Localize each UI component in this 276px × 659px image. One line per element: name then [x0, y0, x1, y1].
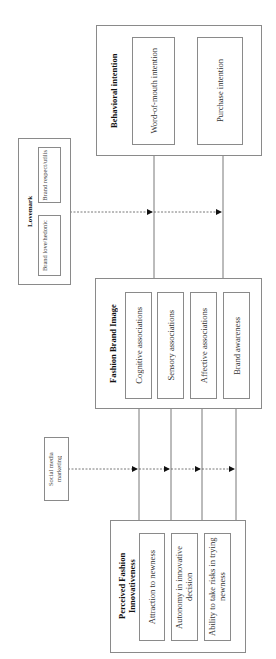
- fashion-brand-image-title: Fashion Brand Image: [106, 279, 120, 408]
- behavioral-intention-title: Behavioral intention: [107, 26, 121, 155]
- brand-respect-box: Brand respect/utilis: [38, 147, 61, 203]
- cognitive-associations-box: Cognitive associations: [125, 292, 152, 399]
- perceived-fashion-innovativeness-title: Perceived Fashion Innovativeness: [116, 541, 138, 631]
- word-of-mouth-intention-label: Word-of-mouth intention: [149, 48, 159, 133]
- brand-respect-label: Brand respect/utilis: [41, 150, 59, 201]
- attraction-to-newness-label: Attraction to newness: [147, 550, 157, 624]
- autonomy-in-innovative-decision-box: Autonomy in innovative decision: [171, 533, 198, 641]
- purchase-intention-box: Purchase intention: [197, 37, 243, 145]
- affective-associations-label: Affective associations: [199, 308, 209, 383]
- social-media-marketing-box: Social media marketing: [44, 437, 69, 501]
- cognitive-associations-label: Cognitive associations: [134, 307, 144, 384]
- social-media-marketing-label: Social media marketing: [47, 439, 67, 499]
- ability-to-take-risks-label: Ability to take risks in trying newness: [207, 535, 229, 639]
- sensory-associations-box: Sensory associations: [157, 292, 184, 399]
- brand-awareness-box: Brand awareness: [223, 292, 250, 399]
- sensory-associations-label: Sensory associations: [166, 310, 176, 381]
- brand-awareness-label: Brand awareness: [232, 317, 242, 375]
- ability-to-take-risks-box: Ability to take risks in trying newness: [204, 533, 231, 641]
- attraction-to-newness-box: Attraction to newness: [139, 533, 165, 641]
- purchase-intention-label: Purchase intention: [215, 59, 225, 122]
- autonomy-in-innovative-decision-label: Autonomy in innovative decision: [174, 535, 196, 639]
- affective-associations-box: Affective associations: [190, 292, 217, 399]
- brand-love-label: Brand love/hedonic: [41, 220, 59, 271]
- word-of-mouth-intention-box: Word-of-mouth intention: [132, 37, 175, 145]
- lovemark-title: Lovemark: [25, 139, 35, 284]
- brand-love-box: Brand love/hedonic: [38, 215, 61, 276]
